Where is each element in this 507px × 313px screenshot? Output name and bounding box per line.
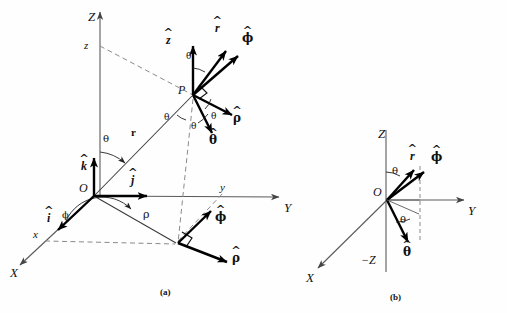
hat-mark: ^ bbox=[213, 15, 223, 26]
panel-a-coord-z-label: z bbox=[84, 40, 88, 51]
panel-a-arc-phi-origin bbox=[66, 197, 131, 221]
panel-b-label-theta-hat: ^θ bbox=[403, 246, 411, 258]
panel-a-segment-rho bbox=[94, 196, 176, 243]
panel-a-arc-theta-zhat bbox=[193, 68, 205, 72]
figure-root: Z Y X z y x P O r ρ θ ϕ θ θ θ θ ^z ^r ^ϕ… bbox=[0, 0, 507, 313]
panel-a-coord-x-label: x bbox=[33, 229, 38, 240]
panel-a-label-z-hat: ^z bbox=[166, 34, 171, 46]
panel-b-axis-z-label: Z bbox=[378, 127, 385, 140]
panel-a-vector-phi-hat-p bbox=[193, 56, 238, 95]
panel-a-label-rho-hat-p: ^ρ bbox=[233, 112, 241, 124]
panel-a-radius-r-label: r bbox=[131, 127, 136, 138]
panel-a-arc-theta-lower bbox=[177, 115, 186, 120]
panel-a-label-theta-hat-p: ^θ bbox=[209, 134, 217, 146]
panel-a-angle-theta-origin: θ bbox=[103, 134, 109, 144]
panel-a-vector-phi-hat-base bbox=[178, 211, 211, 243]
hat-mark: ^ bbox=[208, 127, 218, 138]
panel-a-axis-y-label: Y bbox=[284, 201, 291, 214]
panel-a-label-phi-hat-base: ^ϕ bbox=[215, 211, 226, 223]
panel-a-angle-theta-rhohat: θ bbox=[211, 112, 216, 121]
panel-b-angle-theta-upper: θ bbox=[392, 166, 398, 176]
panel-b-vector-phi-hat bbox=[387, 172, 424, 200]
hat-mark: ^ bbox=[232, 105, 242, 116]
hat-mark: ^ bbox=[44, 205, 54, 216]
hat-mark: ^ bbox=[231, 245, 241, 256]
panel-a-axis-z-label: Z bbox=[88, 10, 95, 23]
panel-b-angle-theta-lower: θ bbox=[400, 215, 406, 225]
panel-b-axis-x-line bbox=[318, 200, 387, 268]
panel-a-point-p-label: P bbox=[178, 84, 185, 96]
panel-a-label-k-hat: ^k bbox=[81, 160, 87, 172]
panel-a-arc-theta-origin bbox=[100, 152, 125, 163]
panel-a-coord-y-label: y bbox=[220, 182, 225, 193]
panel-b-label-r-hat: ^r bbox=[410, 150, 415, 162]
panel-a-vector-r-line bbox=[94, 96, 192, 196]
panel-a-angle-phi-origin: ϕ bbox=[62, 210, 69, 220]
hat-mark: ^ bbox=[243, 25, 253, 36]
panel-a-vector-rho-hat-base bbox=[178, 243, 227, 262]
panel-a-label-r-hat: ^r bbox=[215, 22, 220, 34]
panel-a-dashed-x-to-base bbox=[45, 241, 175, 244]
hat-mark: ^ bbox=[79, 153, 89, 164]
panel-b-axis-x-label: X bbox=[306, 271, 314, 284]
hat-mark: ^ bbox=[128, 167, 138, 178]
panel-a-vector-r-hat bbox=[193, 51, 226, 95]
panel-a-geometry bbox=[20, 12, 279, 265]
panel-a-rho-length-label: ρ bbox=[143, 209, 149, 220]
panel-a-angle-theta-thetahat: θ bbox=[191, 122, 196, 131]
hat-mark: ^ bbox=[408, 143, 418, 154]
panel-a-label-i-hat: ^i bbox=[47, 212, 50, 224]
hat-mark: ^ bbox=[164, 27, 174, 38]
panel-a-label-phi-hat-p: ^ϕ bbox=[242, 32, 253, 44]
panel-a-angle-theta-zhat: θ bbox=[186, 52, 191, 61]
panel-b-label-phi-hat: ^ϕ bbox=[431, 151, 442, 163]
panel-a-origin-label: O bbox=[79, 182, 88, 194]
caption-a: (a) bbox=[160, 288, 171, 297]
hat-mark: ^ bbox=[216, 204, 226, 215]
panel-a-label-rho-hat-base: ^ρ bbox=[232, 252, 240, 264]
caption-b: (b) bbox=[390, 293, 401, 302]
panel-a-label-j-hat: ^j bbox=[131, 174, 134, 186]
panel-a-angle-theta-lower: θ bbox=[164, 113, 169, 122]
hat-mark: ^ bbox=[432, 144, 442, 155]
panel-a-axis-x-label: X bbox=[10, 266, 18, 279]
panel-b-axis-y-label: Y bbox=[468, 204, 475, 217]
panel-b-origin-label: O bbox=[373, 186, 382, 198]
panel-b-axis-minus-z-label: −Z bbox=[361, 254, 376, 266]
hat-mark: ^ bbox=[402, 239, 412, 250]
